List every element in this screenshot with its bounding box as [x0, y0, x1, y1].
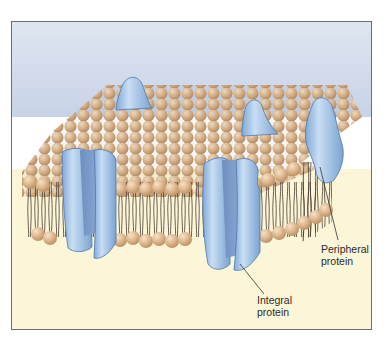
peripheral-label-line2: protein [321, 255, 369, 267]
integral-label-line1: Integral [257, 294, 292, 306]
integral-protein-label: Integral protein [257, 294, 292, 318]
integral-label-line2: protein [257, 306, 292, 318]
integral-protein-center [203, 158, 260, 271]
membrane-illustration [12, 22, 372, 330]
membrane-diagram-frame [11, 21, 372, 330]
peripheral-label-line1: Peripheral [321, 243, 369, 255]
peripheral-protein-label: Peripheral protein [321, 243, 369, 267]
integral-protein-left [62, 148, 116, 258]
